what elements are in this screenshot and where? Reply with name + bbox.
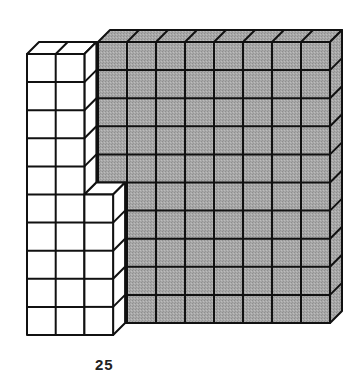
figure-caption: 25 — [95, 356, 114, 373]
gray-cube-block — [98, 30, 342, 323]
